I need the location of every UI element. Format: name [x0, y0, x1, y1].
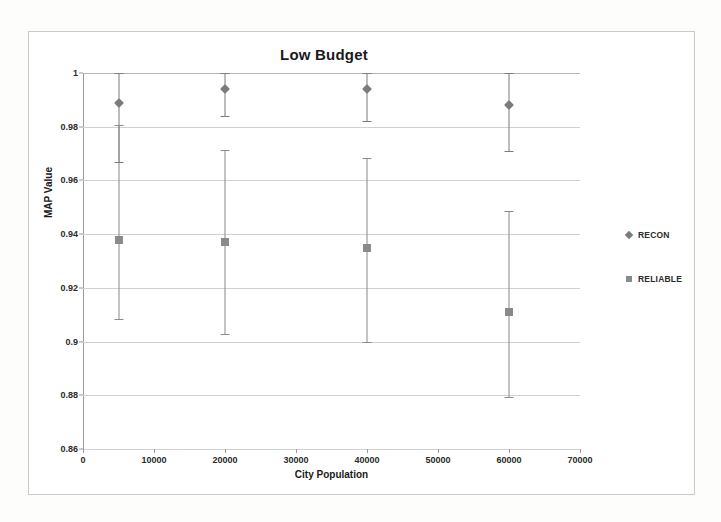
- x-tick-label: 50000: [425, 455, 450, 465]
- data-point-recon[interactable]: [504, 100, 514, 110]
- x-tick-mark: [225, 449, 226, 453]
- x-tick-label: 20000: [212, 455, 237, 465]
- error-bar-cap: [505, 211, 514, 212]
- legend-item-reliable[interactable]: RELIABLE: [626, 271, 692, 287]
- x-tick-mark: [509, 449, 510, 453]
- error-bar-cap: [505, 73, 514, 74]
- data-point-reliable[interactable]: [221, 238, 229, 246]
- error-bar-cap: [221, 334, 230, 335]
- error-bar-cap: [114, 125, 123, 126]
- data-point-recon[interactable]: [220, 84, 230, 94]
- x-tick-label: 10000: [141, 455, 166, 465]
- error-bar: [509, 211, 510, 397]
- gridline: [83, 342, 580, 343]
- x-tick-mark: [580, 449, 581, 453]
- gridline: [83, 234, 580, 235]
- chart-legend: RECON RELIABLE: [626, 227, 692, 315]
- y-tick-label: 1: [73, 68, 78, 78]
- error-bar-cap: [114, 319, 123, 320]
- error-bar-cap: [505, 151, 514, 152]
- error-bar-cap: [221, 150, 230, 151]
- error-bar: [367, 73, 368, 121]
- diamond-marker-icon: [625, 231, 633, 239]
- y-tick-label: 0.94: [60, 229, 78, 239]
- y-tick-mark: [79, 341, 83, 342]
- plot-area: 0.860.880.90.920.940.960.981 01000020000…: [83, 73, 580, 449]
- x-tick-mark: [296, 449, 297, 453]
- x-tick-label: 0: [80, 455, 85, 465]
- y-tick-label: 0.86: [60, 444, 78, 454]
- gridline: [83, 449, 580, 450]
- error-bar-cap: [363, 158, 372, 159]
- gridline: [83, 127, 580, 128]
- gridline: [83, 288, 580, 289]
- error-bar: [509, 73, 510, 151]
- y-tick-mark: [79, 395, 83, 396]
- square-marker-icon: [626, 276, 632, 282]
- x-tick-mark: [438, 449, 439, 453]
- legend-item-recon[interactable]: RECON: [626, 227, 692, 243]
- y-tick-label: 0.9: [65, 337, 78, 347]
- y-tick-label: 0.98: [60, 122, 78, 132]
- error-bar-cap: [114, 73, 123, 74]
- error-bar: [225, 73, 226, 116]
- y-tick-label: 0.88: [60, 390, 78, 400]
- y-tick-mark: [79, 287, 83, 288]
- x-tick-label: 60000: [496, 455, 521, 465]
- x-tick-label: 70000: [567, 455, 592, 465]
- legend-label: RELIABLE: [638, 274, 682, 284]
- y-tick-mark: [79, 180, 83, 181]
- x-axis-label: City Population: [83, 469, 580, 480]
- error-bar-cap: [363, 342, 372, 343]
- data-point-reliable[interactable]: [115, 236, 123, 244]
- error-bar: [118, 125, 119, 318]
- x-tick-label: 40000: [354, 455, 379, 465]
- data-point-recon[interactable]: [114, 98, 124, 108]
- data-point-reliable[interactable]: [363, 244, 371, 252]
- data-point-recon[interactable]: [362, 84, 372, 94]
- y-tick-mark: [79, 73, 83, 74]
- data-point-reliable[interactable]: [505, 308, 513, 316]
- gridline: [83, 180, 580, 181]
- y-tick-mark: [79, 234, 83, 235]
- gridline: [83, 395, 580, 396]
- y-axis-label: MAP Value: [43, 167, 54, 218]
- x-tick-mark: [83, 449, 84, 453]
- chart-title: Low Budget: [29, 46, 619, 63]
- error-bar-cap: [363, 121, 372, 122]
- x-tick-mark: [367, 449, 368, 453]
- x-tick-label: 30000: [283, 455, 308, 465]
- error-bar-cap: [221, 73, 230, 74]
- error-bar-cap: [505, 397, 514, 398]
- y-tick-label: 0.92: [60, 283, 78, 293]
- error-bar-cap: [363, 73, 372, 74]
- y-tick-mark: [79, 126, 83, 127]
- legend-label: RECON: [638, 230, 670, 240]
- error-bar-cap: [221, 116, 230, 117]
- y-tick-label: 0.96: [60, 175, 78, 185]
- x-tick-mark: [154, 449, 155, 453]
- y-axis-line: [83, 73, 84, 449]
- chart-frame: Low Budget MAP Value City Population 0.8…: [28, 31, 695, 495]
